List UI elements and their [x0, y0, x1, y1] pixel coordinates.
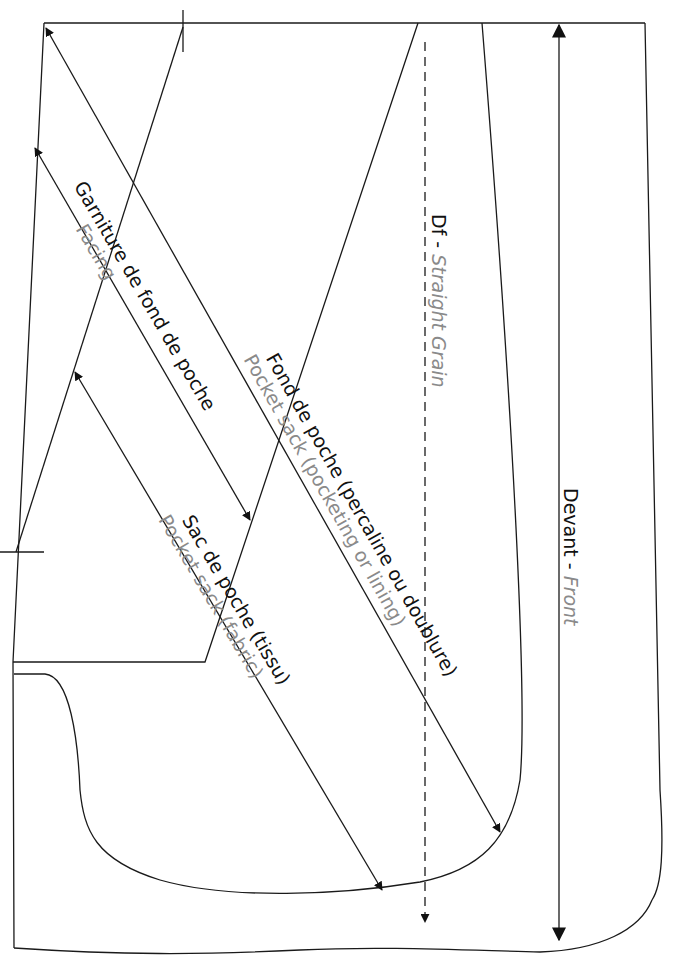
pocket-pattern-diagram: Garniture de fond de poche Facing Fond d… [0, 0, 684, 955]
pocket-sack-curve [14, 23, 522, 893]
pocket-lining-label-en: Pocket sack (pocketing or lining) [240, 350, 411, 630]
facing-label-fr: Garniture de fond de poche [70, 177, 221, 414]
front-label-en: Front [560, 576, 582, 627]
notch-marks [0, 10, 183, 552]
labels: Garniture de fond de poche Facing Fond d… [53, 177, 582, 699]
grain-label-fr: Df - [428, 214, 450, 254]
dimension-arrows [35, 25, 559, 940]
front-label: Devant - Front [560, 488, 582, 627]
front-label-fr: Devant - [560, 488, 582, 576]
grain-label-en: Straight Grain [428, 254, 450, 387]
facing-arrow [35, 148, 250, 520]
pocket-lining-label-fr: Fond de poche (percaline ou doublure) [262, 349, 462, 680]
pocket-lining-arrow [46, 28, 500, 832]
grain-label: Df - Straight Grain [428, 214, 450, 388]
